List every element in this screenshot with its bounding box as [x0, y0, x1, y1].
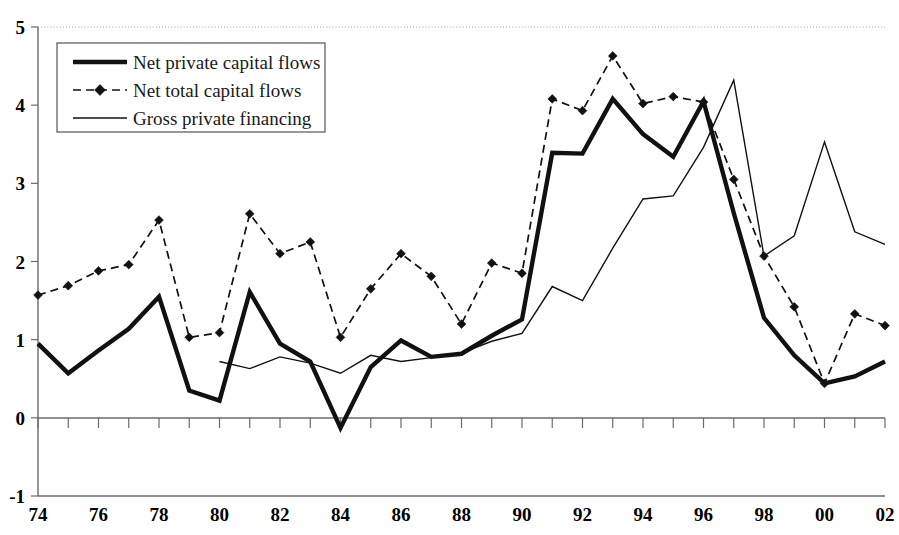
x-tick-label: 76: [89, 504, 108, 525]
x-tick-label: 94: [634, 504, 654, 525]
x-tick-label: 92: [573, 504, 592, 525]
x-tick-label: 86: [392, 504, 411, 525]
x-tick-label: 02: [876, 504, 895, 525]
legend-label-gross-private-financing: Gross private financing: [133, 108, 312, 129]
legend-label-net-total-capital-flows: Net total capital flows: [133, 80, 301, 101]
y-tick-label: 5: [16, 17, 26, 38]
x-tick-label: 80: [210, 504, 229, 525]
x-tick-label: 88: [452, 504, 471, 525]
y-tick-label: -1: [9, 486, 25, 507]
y-tick-label: 2: [16, 252, 26, 273]
chart-container: -1012345 747678808284868890929496980002 …: [0, 0, 899, 535]
x-tick-label: 96: [694, 504, 713, 525]
x-tick-label: 00: [815, 504, 834, 525]
y-tick-label: 4: [16, 95, 26, 116]
x-tick-label: 74: [29, 504, 49, 525]
chart-legend: Net private capital flows Net total capi…: [57, 43, 325, 132]
x-tick-label: 98: [755, 504, 774, 525]
x-tick-label: 78: [150, 504, 169, 525]
legend-label-net-private-capital-flows: Net private capital flows: [133, 52, 320, 73]
y-tick-label: 3: [16, 173, 26, 194]
y-tick-label: 0: [16, 408, 26, 429]
x-tick-label: 82: [271, 504, 290, 525]
x-tick-label: 90: [513, 504, 532, 525]
x-tick-label: 84: [331, 504, 351, 525]
line-chart: -1012345 747678808284868890929496980002 …: [0, 0, 899, 535]
x-axis-tick-labels: 747678808284868890929496980002: [29, 504, 895, 525]
y-tick-label: 1: [16, 330, 26, 351]
